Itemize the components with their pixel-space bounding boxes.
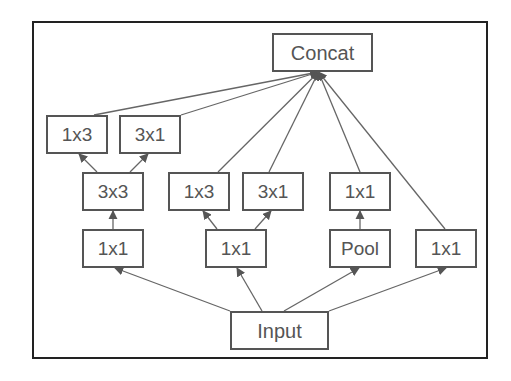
node-label: 1x1 (345, 182, 376, 201)
branch3-pool-node: Pool (329, 229, 391, 268)
edge-arrow (218, 72, 319, 172)
edge-arrow (115, 268, 230, 311)
branch2-1x3-node: 1x3 (168, 172, 230, 211)
node-label: 1x1 (221, 239, 252, 258)
branch1-3x3-node: 3x3 (82, 172, 144, 211)
branch1-1x3-node: 1x3 (46, 115, 108, 154)
node-label: Pool (341, 239, 379, 258)
node-label: 1x1 (98, 239, 129, 258)
edge-arrow (181, 72, 319, 115)
node-label: 3x1 (135, 125, 166, 144)
edge-arrow (319, 72, 361, 172)
input-node: Input (230, 311, 329, 350)
edge-arrow (255, 211, 271, 229)
node-label: 1x3 (184, 182, 215, 201)
branch1-1x1-node: 1x1 (82, 229, 144, 268)
edge-arrow (130, 154, 148, 172)
node-label: 1x1 (431, 239, 462, 258)
branch4-1x1-node: 1x1 (415, 229, 477, 268)
node-label: 1x3 (62, 125, 93, 144)
node-label: 3x3 (98, 182, 129, 201)
node-label: Input (257, 321, 301, 341)
edge-arrow (203, 211, 217, 229)
edge-arrow (237, 268, 262, 311)
edge-arrow (94, 72, 319, 115)
branch2-1x1-node: 1x1 (205, 229, 267, 268)
branch1-3x1-node: 3x1 (119, 115, 181, 154)
edge-arrow (79, 154, 97, 172)
branch3-1x1-node: 1x1 (329, 172, 391, 211)
concat-node: Concat (272, 33, 373, 72)
edge-arrow (269, 72, 319, 172)
node-label: 3x1 (258, 182, 289, 201)
branch2-3x1-node: 3x1 (242, 172, 304, 211)
node-label: Concat (291, 43, 354, 63)
